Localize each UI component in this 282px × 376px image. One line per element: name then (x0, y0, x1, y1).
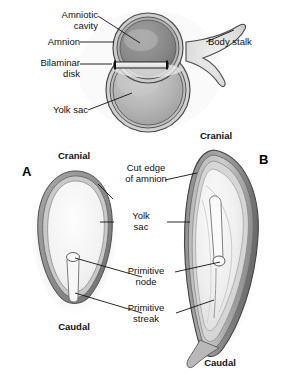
label-primitive-streak: Primitive streak (117, 303, 175, 324)
amniotic-cavity-highlight (124, 29, 158, 51)
label-cranial-b: Cranial (184, 131, 248, 142)
label-yolk-sac-mid: Yolk sac (118, 211, 164, 232)
label-bilaminar-disk: Bilaminar disk (12, 58, 80, 79)
panel-b-diagram (165, 146, 263, 368)
panel-b-primitive-node (213, 256, 225, 266)
panel-a-diagram (31, 166, 142, 314)
label-amniotic-cavity: Amniotic cavity (22, 10, 98, 31)
panel-label-a: A (22, 167, 31, 178)
label-primitive-node: Primitive node (117, 266, 175, 287)
bilaminar-disk-plate (114, 62, 168, 68)
panel-a-primitive-node (67, 253, 80, 262)
panel-a-primitive-streak (67, 256, 79, 302)
label-yolk-sac-top: Yolk sac (28, 105, 88, 116)
label-cut-edge-of-amnion: Cut edge of amnion (117, 163, 175, 184)
label-body-stalk: Body stalk (208, 37, 252, 48)
label-cranial-a: Cranial (42, 151, 106, 162)
label-caudal-b: Caudal (188, 358, 252, 369)
panel-label-b: B (259, 155, 268, 166)
label-amnion: Amnion (20, 37, 80, 48)
top-sagittal-diagram (78, 10, 246, 132)
embryology-figure: Amniotic cavity Amnion Bilaminar disk Yo… (0, 0, 282, 376)
label-caudal-a: Caudal (42, 322, 106, 333)
